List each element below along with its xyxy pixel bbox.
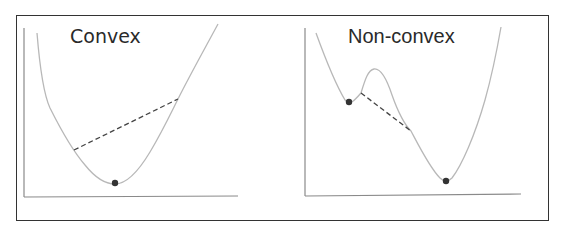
nonconvex-local-minimum-dot	[346, 99, 352, 105]
convex-panel-axes	[24, 28, 238, 197]
nonconvex-global-minimum-dot	[443, 178, 449, 184]
convex-global-minimum-dot	[112, 180, 118, 186]
nonconvex-chord	[361, 93, 411, 131]
convex-title: Convex	[70, 25, 141, 47]
nonconvex-panel-axes	[305, 28, 521, 196]
nonconvex-title: Non-convex	[348, 25, 455, 48]
convex-chord	[74, 99, 178, 150]
nonconvex-curve	[316, 27, 501, 181]
convex-curve	[37, 24, 218, 184]
